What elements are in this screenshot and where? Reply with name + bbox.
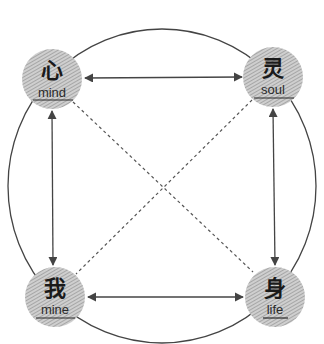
- node-mine-char: 我: [44, 276, 66, 301]
- edge-mind-life-dashed: [73, 102, 253, 272]
- node-mind: 心 mind: [22, 49, 82, 109]
- node-mine-label: mine: [41, 302, 69, 317]
- edge-soul-life-arrow: [273, 109, 275, 265]
- edge-mind-soul-arrow: [85, 77, 242, 78]
- node-life: 身 life: [245, 267, 305, 327]
- node-soul-char: 灵: [262, 56, 284, 81]
- node-mind-label: mind: [38, 85, 66, 100]
- node-mind-char: 心: [41, 58, 63, 83]
- mind-soul-mine-life-diagram: 心 mind 灵 soul 我 mine 身 life: [0, 0, 324, 344]
- node-life-label: life: [267, 302, 284, 317]
- node-life-char: 身: [264, 276, 286, 301]
- node-soul: 灵 soul: [243, 47, 303, 107]
- edge-soul-mine-dashed: [76, 100, 252, 274]
- node-mine: 我 mine: [25, 267, 85, 327]
- edge-mind-mine-arrow: [52, 111, 53, 265]
- node-soul-label: soul: [261, 82, 285, 97]
